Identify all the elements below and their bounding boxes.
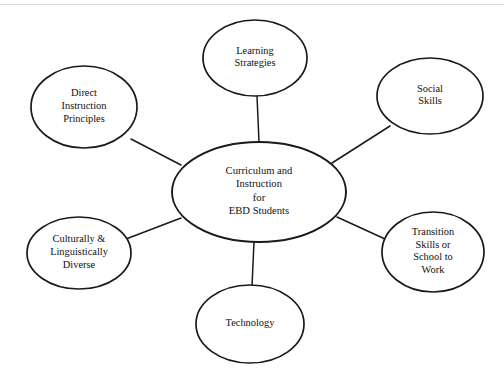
label-line: for: [253, 192, 266, 203]
label-line: Social: [417, 83, 443, 94]
label-line: School to: [413, 252, 453, 263]
nodes-layer: LearningStrategiesSocialSkillsTransition…: [27, 20, 484, 363]
label-line: Linguistically: [50, 246, 109, 257]
node-direct-instruction-principles[interactable]: DirectInstructionPrinciples: [31, 66, 137, 148]
diagram-canvas: LearningStrategiesSocialSkillsTransition…: [0, 0, 504, 382]
node-culturally-linguistically-diverse[interactable]: Culturally &LinguisticallyDiverse: [27, 217, 131, 289]
label-line: Curriculum and: [226, 166, 293, 177]
label-line: Transition: [412, 226, 455, 237]
node-learning-strategies[interactable]: LearningStrategies: [203, 20, 307, 96]
connector-center-to-technology: [252, 242, 254, 286]
label-technology: Technology: [226, 317, 276, 328]
label-line: Culturally &: [53, 234, 106, 245]
label-learning-strategies: LearningStrategies: [235, 45, 276, 69]
label-line: Learning: [236, 45, 274, 56]
label-line: Skills: [418, 96, 442, 107]
node-center[interactable]: Curriculum andInstructionforEBD Students: [172, 142, 346, 242]
node-transition-skills[interactable]: TransitionSkills orSchool toWork: [382, 212, 484, 292]
label-line: Principles: [63, 113, 105, 124]
label-line: Instruction: [236, 179, 283, 190]
connector-center-to-direct-instruction: [131, 139, 181, 165]
connector-center-to-culturally-diverse: [126, 218, 181, 239]
node-technology[interactable]: Technology: [196, 285, 304, 363]
connector-center-to-learning-strategies: [257, 96, 259, 142]
label-line: EBD Students: [229, 205, 289, 216]
connector-center-to-social-skills: [332, 126, 390, 163]
label-line: Diverse: [63, 259, 96, 270]
node-social-skills[interactable]: SocialSkills: [377, 58, 483, 134]
label-social-skills: SocialSkills: [417, 83, 443, 107]
label-line: Strategies: [235, 58, 276, 69]
label-line: Instruction: [61, 100, 107, 111]
label-line: Direct: [71, 88, 97, 99]
label-line: Skills or: [416, 239, 451, 250]
connector-center-to-transition-skills: [337, 217, 385, 239]
concept-map-svg: LearningStrategiesSocialSkillsTransition…: [0, 0, 504, 382]
label-line: Technology: [226, 317, 276, 328]
label-line: Work: [422, 264, 446, 275]
